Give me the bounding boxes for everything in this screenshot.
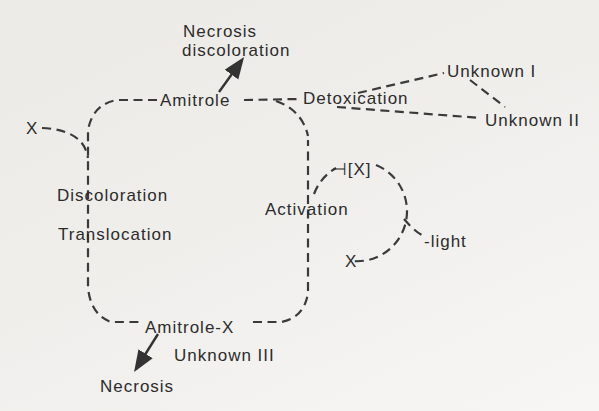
discoloration-label: Discoloration xyxy=(57,186,168,205)
unknown3-label: Unknown III xyxy=(174,346,275,365)
unknown2-label: Unknown II xyxy=(485,111,580,130)
plant-loop-right-path xyxy=(253,140,308,322)
x-released-label: X xyxy=(345,252,357,271)
diagram-canvas: Necrosis discoloration Amitrole Detoxica… xyxy=(0,0,599,411)
amitrole-label: Amitrole xyxy=(160,91,230,110)
amitrole-detoxication-connector xyxy=(244,99,300,100)
light-connector xyxy=(404,219,424,236)
pathway-diagram: Necrosis discoloration Amitrole Detoxica… xyxy=(0,0,599,411)
x-bound-label: ⊣[X] xyxy=(332,160,372,179)
translocation-label: Translocation xyxy=(58,225,172,244)
activation-cycle-arc-right xyxy=(352,165,407,261)
necrosis-discoloration-label-line2: discoloration xyxy=(182,41,290,60)
necrosis-discoloration-label-line1: Necrosis xyxy=(183,22,257,41)
detoxication-unknown2-connector xyxy=(337,107,481,118)
x-entry-connector xyxy=(42,128,88,158)
x-external-label: X xyxy=(26,119,38,138)
necrosis-label: Necrosis xyxy=(100,377,174,396)
amitrole-x-label: Amitrole-X xyxy=(145,318,234,337)
arrow-to-necrosis-discoloration xyxy=(219,60,242,92)
activation-label: Activation xyxy=(265,200,349,219)
arrow-to-necrosis xyxy=(136,334,158,369)
detoxication-label: Detoxication xyxy=(303,89,409,108)
unknown1-unknown2-connector xyxy=(470,80,505,107)
plant-loop-left-path xyxy=(88,100,157,322)
unknown1-label: Unknown I xyxy=(447,62,536,81)
light-label: -light xyxy=(424,232,467,251)
